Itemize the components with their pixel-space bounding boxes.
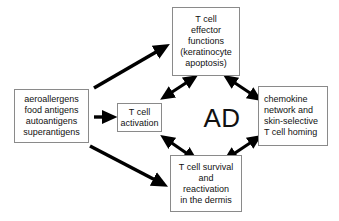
t-cell-survival-box: T cell survival and reactivation in the …: [170, 155, 242, 212]
effector-line-5: apoptosis): [185, 58, 227, 69]
effector-line-3: functions: [188, 36, 224, 47]
survival-line-4: in the dermis: [180, 195, 232, 206]
chemokine-line-3: skin-selective: [264, 116, 318, 127]
effector-line-1: T cell: [195, 14, 216, 25]
stimuli-line-3: autoantigens: [26, 116, 78, 127]
chemokine-line-4: T cell homing: [264, 127, 317, 138]
activation-line-1: T cell: [129, 107, 150, 118]
chemokine-line-1: chemokine: [264, 94, 308, 105]
survival-line-1: T cell survival: [179, 162, 233, 173]
survival-line-2: and: [198, 173, 213, 184]
effector-line-2: effector: [191, 25, 221, 36]
arrow-effector-to-chemokine: [229, 79, 256, 97]
diagram-canvas: aeroallergens food antigens autoantigens…: [0, 0, 339, 221]
activation-line-2: activation: [120, 118, 158, 129]
stimuli-line-4: superantigens: [23, 127, 80, 138]
antigen-stimuli-box: aeroallergens food antigens autoantigens…: [14, 89, 89, 143]
center-label-ad: AD: [196, 101, 248, 135]
arrow-stimuli-to-effector: [94, 48, 163, 88]
stimuli-line-2: food antigens: [24, 105, 78, 116]
arrow-stimuli-to-survival: [90, 146, 161, 183]
survival-line-3: reactivation: [183, 184, 229, 195]
stimuli-line-1: aeroallergens: [24, 94, 79, 105]
arrow-ad-to-effector: [166, 79, 192, 96]
effector-line-4: (keratinocyte: [180, 47, 232, 58]
t-cell-effector-functions-box: T cell effector functions (keratinocyte …: [172, 7, 240, 76]
chemokine-line-2: network and: [264, 105, 313, 116]
t-cell-activation-box: T cell activation: [117, 103, 162, 132]
chemokine-network-box: chemokine network and skin-selective T c…: [258, 86, 328, 146]
